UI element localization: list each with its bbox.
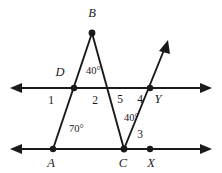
upper-parallel-line	[10, 83, 212, 93]
vertex-dot-Y	[147, 85, 153, 91]
angle-measure-at-B: 40°	[86, 65, 101, 76]
angle-label-2: 2	[92, 94, 98, 106]
vertex-dot-C	[121, 146, 128, 153]
vertex-dot-B	[89, 30, 96, 37]
point-label-B: B	[88, 6, 96, 20]
arrow-right-upper	[200, 83, 212, 93]
arrow-right-lower	[200, 144, 212, 154]
arrow-ray-tip	[159, 40, 170, 54]
geometry-diagram: B D A C X Y 1 2 5 4 3 40° 40° 70°	[0, 0, 222, 173]
angle-measure-at-C: 40°	[124, 112, 139, 123]
arrow-left-upper	[10, 83, 22, 93]
point-label-X: X	[146, 156, 156, 170]
segment-B-to-C	[92, 33, 124, 149]
point-label-Y: Y	[155, 92, 164, 106]
angle-label-4: 4	[137, 93, 143, 105]
vertex-dot-D	[71, 85, 77, 91]
vertex-dot-X	[147, 146, 153, 152]
point-label-C: C	[119, 156, 128, 170]
angle-label-1: 1	[48, 94, 54, 106]
angle-label-5: 5	[117, 93, 123, 105]
point-label-A: A	[46, 156, 55, 170]
arrow-left-lower	[10, 144, 22, 154]
point-label-D: D	[54, 65, 64, 79]
angle-label-3: 3	[137, 128, 143, 140]
geometry-canvas: B D A C X Y 1 2 5 4 3 40° 40° 70°	[0, 0, 222, 173]
angle-measure-at-A: 70°	[69, 123, 84, 134]
ray-C-through-Y	[124, 40, 170, 149]
vertex-dot-A	[50, 146, 56, 152]
lower-parallel-line	[10, 144, 212, 154]
